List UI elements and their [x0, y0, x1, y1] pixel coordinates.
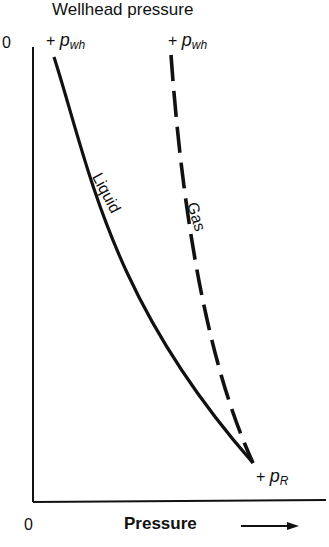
liquid-curve — [54, 57, 253, 463]
x-axis — [33, 500, 326, 502]
arrow-right-icon — [241, 522, 299, 530]
gas-curve — [171, 55, 253, 463]
diagram-canvas — [0, 0, 329, 547]
